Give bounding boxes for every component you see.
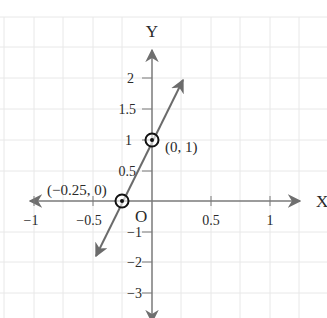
x-tick-label: −0.5 [76, 213, 101, 228]
x-tick-label: 1 [267, 213, 274, 228]
point-0-1 [146, 134, 159, 147]
y-tick-label: 2 [127, 71, 134, 86]
grid [0, 17, 327, 318]
y-tick-label: 1.5 [119, 102, 137, 117]
y-tick-label: −3 [127, 286, 142, 301]
x-tick-label: −1 [24, 213, 39, 228]
y-tick-label: −2 [127, 255, 142, 270]
coordinate-graph: −1 −0.5 0.5 1 0.5 1 1.5 2 −1 −2 −3 X Y O… [0, 0, 327, 318]
y-tick-label: 1 [125, 133, 132, 148]
graph-svg: −1 −0.5 0.5 1 0.5 1 1.5 2 −1 −2 −3 X Y O… [0, 0, 327, 318]
x-axis-label: X [316, 192, 327, 211]
y-axis-label: Y [146, 22, 158, 41]
y-tick-label: −1 [127, 225, 142, 240]
x-tick-label: 0.5 [202, 213, 220, 228]
point-label: (0, 1) [165, 139, 198, 156]
origin-label: O [135, 207, 147, 226]
y-ticks [142, 78, 152, 293]
point-label: (−0.25, 0) [47, 182, 107, 199]
y-tick-label: 0.5 [119, 164, 137, 179]
point-neg0.25-0 [116, 195, 129, 208]
